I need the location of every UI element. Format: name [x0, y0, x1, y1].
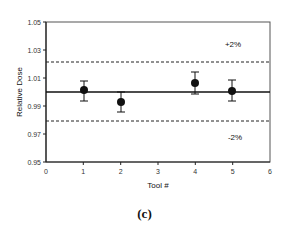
y-axis-label: Relative Dose [15, 67, 24, 117]
x-tick-label: 0 [44, 168, 48, 175]
x-tick-label: 2 [119, 168, 123, 175]
x-tick-label: 3 [156, 168, 160, 175]
data-point-tool-5 [228, 80, 236, 101]
y-tick-label: 0.97 [27, 131, 41, 138]
y-ticks: 0.95 0.97 0.99 1.01 1.03 1.05 [27, 19, 46, 166]
x-axis-label: Tool # [147, 181, 169, 190]
y-tick-label: 1.01 [27, 75, 41, 82]
x-tick-label: 6 [268, 168, 272, 175]
y-tick-label: 0.99 [27, 103, 41, 110]
x-ticks: 0 1 2 3 4 5 6 [44, 162, 272, 175]
chart: 0.95 0.97 0.99 1.01 1.03 1.05 0 1 2 3 4 … [0, 0, 289, 240]
y-tick-label: 1.05 [27, 19, 41, 26]
y-tick-label: 1.03 [27, 47, 41, 54]
data-point-tool-1 [80, 81, 88, 101]
figure-caption: (c) [0, 206, 289, 222]
plus-2pct-label: +2% [225, 40, 241, 49]
y-tick-label: 0.95 [27, 159, 41, 166]
data-point-tool-4 [191, 72, 199, 94]
x-tick-label: 5 [231, 168, 235, 175]
x-tick-label: 1 [81, 168, 85, 175]
data-point-tool-2 [117, 92, 125, 112]
x-tick-label: 4 [193, 168, 197, 175]
minus-2pct-label: -2% [228, 133, 242, 142]
